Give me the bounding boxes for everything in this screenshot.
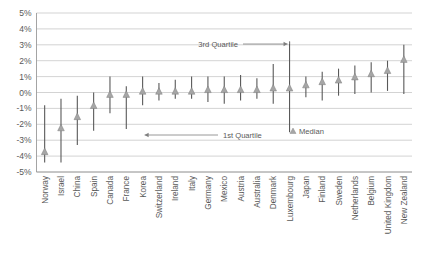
x-axis-tick-label: Belgium: [367, 176, 376, 206]
x-axis-tick-label: Canada: [106, 176, 115, 205]
x-axis-tick-label: Mexico: [220, 176, 229, 202]
y-axis-tick-label: -5%: [16, 167, 32, 177]
y-axis-tick-label: -1%: [16, 103, 32, 113]
x-axis-tick-label: Norway: [41, 175, 50, 204]
chart-background: [0, 0, 431, 255]
x-axis-tick-label: Sweden: [335, 176, 344, 206]
x-axis-tick-label: Austria: [237, 176, 246, 202]
x-axis-tick-label: Ireland: [171, 176, 180, 201]
annotation-label-first-quartile: 1st Quartile: [223, 131, 262, 140]
x-axis-tick-label: France: [122, 176, 131, 202]
y-axis-tick-label: 1%: [19, 72, 32, 82]
y-axis-tick-label: 5%: [19, 8, 32, 18]
y-axis-tick-label: 0%: [19, 88, 32, 98]
y-axis-tick-label: 2%: [19, 56, 32, 66]
y-axis-tick-label: 3%: [19, 40, 32, 50]
x-axis-tick-label: Finland: [318, 176, 327, 203]
y-axis-tick-label: -3%: [16, 135, 32, 145]
x-axis-tick-label: Germany: [204, 175, 213, 210]
x-axis-tick-label: China: [73, 176, 82, 198]
y-axis-tick-labels: 5%4%3%2%1%0%-1%-2%-3%-4%-5%: [16, 8, 32, 177]
x-axis-tick-label: United Kingdom: [384, 176, 393, 234]
x-axis-tick-label: Israel: [57, 176, 66, 196]
x-axis-tick-label: New Zealand: [400, 176, 409, 225]
y-axis-tick-label: -2%: [16, 119, 32, 129]
range-chart: 5%4%3%2%1%0%-1%-2%-3%-4%-5% NorwayIsrael…: [0, 0, 431, 255]
x-axis-tick-label: Korea: [139, 176, 148, 198]
x-axis-tick-label: Denmark: [269, 175, 278, 209]
x-axis-tick-label: Australia: [253, 176, 262, 208]
x-axis-tick-label: Japan: [302, 176, 311, 199]
y-axis-tick-label: -4%: [16, 151, 32, 161]
x-axis-tick-label: Spain: [90, 176, 99, 197]
x-axis-tick-label: Netherlands: [351, 176, 360, 220]
x-axis-tick-label: Luxembourg: [286, 176, 295, 222]
x-axis-tick-label: Italy: [188, 175, 197, 191]
legend-label-median: Median: [299, 127, 324, 136]
x-axis-tick-label: Switzerland: [155, 176, 164, 219]
y-axis-tick-label: 4%: [19, 24, 32, 34]
annotation-label-third-quartile: 3rd Quartile: [198, 40, 238, 49]
chart-canvas: 5%4%3%2%1%0%-1%-2%-3%-4%-5% NorwayIsrael…: [0, 0, 431, 255]
